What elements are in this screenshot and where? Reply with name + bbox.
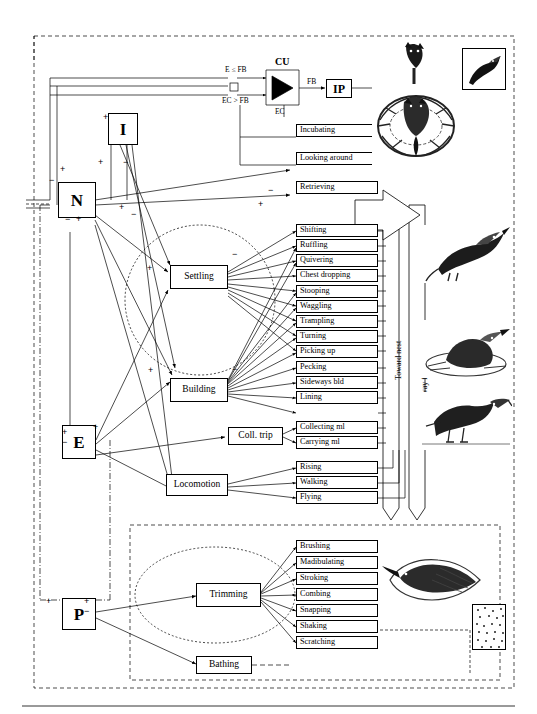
- group-bathing[interactable]: Bathing: [196, 656, 252, 674]
- sign-label: −: [49, 176, 54, 185]
- act-shaking-label: Shaking: [300, 622, 327, 630]
- act-looking-around[interactable]: Looking around: [296, 152, 378, 165]
- act-walking[interactable]: Walking: [296, 476, 378, 489]
- sign-label: +: [84, 597, 89, 606]
- act-stooping[interactable]: Stooping: [296, 285, 378, 298]
- act-rising-label: Rising: [300, 463, 321, 471]
- group-bathing-label: Bathing: [209, 660, 239, 670]
- photo-bird-nest-building: [420, 320, 512, 378]
- diagram-canvas: I N E P IP CU E ≤ FB EC > FB FB EC Settl…: [0, 0, 537, 714]
- act-flying[interactable]: Flying: [296, 491, 378, 504]
- group-coll-trip-label: Coll. trip: [238, 431, 272, 441]
- group-trimming[interactable]: Trimming: [196, 583, 261, 607]
- node-IP-label: IP: [333, 83, 345, 95]
- photo-bird-carrying-material: [420, 392, 512, 450]
- act-sideways-bld[interactable]: Sideways bld: [296, 376, 378, 389]
- act-walking-label: Walking: [300, 478, 328, 486]
- act-lining-label: Lining: [300, 393, 322, 401]
- act-turning[interactable]: Turning: [296, 330, 378, 343]
- sign-label: −: [123, 158, 128, 167]
- sign-label: +: [62, 428, 67, 437]
- sign-label: +: [76, 215, 81, 224]
- act-combing[interactable]: Combing: [296, 588, 378, 601]
- act-turning-label: Turning: [300, 332, 326, 340]
- cu-output-label: FB: [307, 78, 316, 86]
- act-collecting-ml-label: Collecting ml: [300, 423, 345, 431]
- photo-bird-carrying-material-art: [420, 392, 512, 450]
- act-quivering[interactable]: Quivering: [296, 254, 378, 267]
- photo-bird-shifting-art: [420, 225, 512, 283]
- cu-input-2-label: EC > FB: [222, 97, 249, 105]
- axis-toward-nest-label: Toward nest: [394, 341, 403, 380]
- act-quivering-label: Quivering: [300, 256, 333, 264]
- cu-input-1-label: E ≤ FB: [225, 66, 247, 74]
- node-I-label: I: [120, 121, 127, 138]
- photo-bird-preening-art: [380, 550, 490, 612]
- act-combing-label: Combing: [300, 590, 330, 598]
- node-E-label: E: [73, 434, 84, 451]
- sign-label: −: [84, 607, 89, 616]
- sign-label: −: [65, 215, 70, 224]
- act-ruffling-label: Ruffling: [300, 241, 328, 249]
- group-building[interactable]: Building: [170, 378, 228, 402]
- act-incubating[interactable]: Incubating: [296, 124, 378, 137]
- sign-label: +: [147, 264, 152, 273]
- act-shifting[interactable]: Shifting: [296, 224, 378, 237]
- act-pecking-label: Pecking: [300, 363, 326, 371]
- group-coll-trip[interactable]: Coll. trip: [228, 427, 283, 445]
- photo-nest-pair: [372, 40, 460, 165]
- act-brushing[interactable]: Brushing: [296, 540, 378, 553]
- act-picking-up-label: Picking up: [300, 347, 335, 355]
- act-looking-around-label: Looking around: [300, 154, 353, 162]
- act-picking-up[interactable]: Picking up: [296, 345, 378, 358]
- act-snapping[interactable]: Snapping: [296, 604, 378, 617]
- photo-bird-nest-building-art: [420, 320, 512, 378]
- act-shifting-label: Shifting: [300, 226, 326, 234]
- act-ruffling[interactable]: Ruffling: [296, 239, 378, 252]
- node-P[interactable]: P: [62, 598, 96, 630]
- act-snapping-label: Snapping: [300, 606, 331, 614]
- photo-texture-inset-art: [473, 605, 506, 650]
- act-trampling[interactable]: Trampling: [296, 315, 378, 328]
- act-trampling-label: Trampling: [300, 317, 334, 325]
- photo-texture-inset: [472, 604, 506, 650]
- node-N[interactable]: N: [58, 182, 96, 218]
- photo-nest-pair-art: [372, 40, 460, 165]
- act-retrieving[interactable]: Retrieving: [296, 181, 378, 194]
- sign-label: +: [148, 366, 153, 375]
- group-locomotion[interactable]: Locomotion: [166, 474, 228, 496]
- node-N-label: N: [71, 192, 83, 209]
- node-P-label: P: [74, 606, 84, 623]
- sign-label: −: [62, 438, 67, 447]
- cu-label: CU: [275, 57, 289, 67]
- act-carrying-ml[interactable]: Carrying ml: [296, 436, 378, 449]
- act-shaking[interactable]: Shaking: [296, 620, 378, 633]
- act-madibulating-label: Madibulating: [300, 558, 344, 566]
- sign-label: +: [93, 423, 98, 432]
- act-stroking[interactable]: Stroking: [296, 572, 378, 585]
- node-IP[interactable]: IP: [326, 79, 352, 98]
- act-scratching-label: Scratching: [300, 638, 335, 646]
- photo-bird-inset: [462, 48, 506, 90]
- act-waggling-label: Waggling: [300, 302, 332, 310]
- sign-label: −: [268, 186, 273, 195]
- act-sideways-bld-label: Sideways bld: [300, 378, 344, 386]
- photo-bird-inset-art: [463, 49, 506, 90]
- act-lining[interactable]: Lining: [296, 391, 378, 404]
- act-waggling[interactable]: Waggling: [296, 300, 378, 313]
- act-stooping-label: Stooping: [300, 287, 330, 295]
- sign-label: +: [46, 597, 51, 606]
- node-I[interactable]: I: [108, 113, 138, 145]
- sign-label: +: [119, 203, 124, 212]
- photo-bird-shifting: [420, 225, 512, 283]
- group-settling[interactable]: Settling: [170, 265, 228, 289]
- act-scratching[interactable]: Scratching: [296, 636, 378, 649]
- act-rising[interactable]: Rising: [296, 461, 378, 474]
- act-stroking-label: Stroking: [300, 574, 328, 582]
- act-flying-label: Flying: [300, 493, 321, 501]
- act-pecking[interactable]: Pecking: [296, 361, 378, 374]
- act-madibulating[interactable]: Madibulating: [296, 556, 378, 569]
- act-chest-dropping[interactable]: Chest dropping: [296, 269, 378, 282]
- act-collecting-ml[interactable]: Collecting ml: [296, 421, 378, 434]
- act-brushing-label: Brushing: [300, 542, 330, 550]
